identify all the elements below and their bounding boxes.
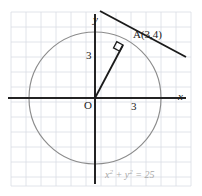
radius-segment-OA — [95, 45, 123, 98]
x-axis-label: x — [178, 91, 183, 102]
y-axis-label: y — [93, 14, 98, 25]
x-axis-tick-label-3: 3 — [131, 101, 137, 112]
circle-equation-label: x2 + y2 = 25 — [105, 170, 154, 180]
equation-rhs: = 25 — [133, 169, 155, 180]
right-angle-marker-icon — [114, 42, 124, 52]
y-axis-tick-label-3: 3 — [86, 50, 92, 61]
equation-plus: + — [113, 169, 125, 180]
point-a-label: A(3,4) — [133, 29, 162, 40]
geometry-figure — [0, 0, 202, 196]
diagram-canvas: y x O 3 3 A(3,4) x2 + y2 = 25 — [0, 0, 202, 196]
origin-label: O — [84, 100, 92, 111]
